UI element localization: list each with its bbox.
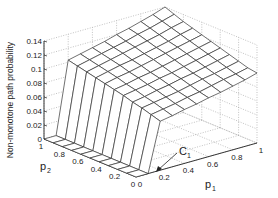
z-axis-label: Non-monotone path probability: [5, 41, 15, 158]
z-tick-label: 0.06: [26, 93, 42, 102]
z-tick-label: 0.14: [26, 37, 42, 46]
surface-plot: 00.020.040.060.080.10.120.1400.20.40.60.…: [0, 0, 278, 198]
annotation-arrow: [158, 153, 177, 170]
p1-label-sub: 1: [212, 185, 216, 192]
p2-tick-label: 1: [39, 142, 44, 151]
c1-label-main: C: [179, 145, 187, 157]
surface-chart: 00.020.040.060.080.10.120.1400.20.40.60.…: [0, 0, 278, 198]
c1-label-sub: 1: [187, 152, 191, 159]
p2-label-sub: 2: [47, 167, 51, 174]
p1-tick-label: 1: [259, 146, 264, 155]
z-tick-label: 0.12: [26, 51, 42, 60]
z-tick-label: 0.04: [26, 107, 42, 116]
p2-tick-label: 0.6: [72, 157, 84, 166]
p1-tick-label: 0: [138, 180, 143, 189]
z-tick-label: 0.02: [26, 121, 42, 130]
p1-tick-label: 0.2: [159, 173, 171, 182]
p1-tick-label: 0.4: [183, 166, 195, 175]
p1-tick-label: 0.6: [207, 160, 219, 169]
p2-tick-label: 0.8: [54, 150, 66, 159]
p2-axis-label: p 2: [40, 160, 51, 174]
surface-mesh: [44, 7, 257, 177]
p1-tick-label: 0.8: [231, 153, 243, 162]
p1-axis-label: p 1: [205, 178, 216, 192]
p1-label-main: p: [205, 178, 211, 190]
p2-label-main: p: [40, 160, 46, 172]
z-tick-label: 0.08: [26, 79, 42, 88]
z-tick-label: 0.1: [31, 65, 43, 74]
p2-tick-label: 0: [131, 180, 136, 189]
p2-tick-label: 0.2: [109, 172, 121, 181]
p2-tick-label: 0.4: [91, 165, 103, 174]
